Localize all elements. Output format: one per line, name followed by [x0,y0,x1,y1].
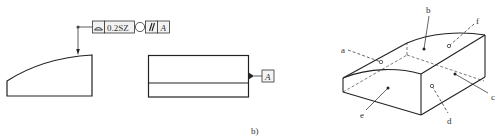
label-a: a [341,45,383,64]
svg-text:c: c [491,92,495,102]
technical-drawing: 0.2SZ A A b) [0,0,501,139]
visible-edges [343,33,485,115]
svg-text:f: f [476,16,479,26]
svg-text:a: a [341,45,345,55]
hidden-edges [343,43,484,92]
leader-arrowhead [76,49,80,55]
datum-triangle-icon [249,73,255,80]
middle-view: A [149,56,275,98]
svg-text:e: e [360,110,364,120]
left-part-outline [7,55,92,96]
label-e: e [360,87,390,121]
subfigure-label: b) [251,126,259,136]
isometric-view: a b f c d e [341,5,495,126]
label-d: d [430,84,452,126]
label-b: b [423,5,432,51]
svg-text:b: b [426,5,431,15]
label-f: f [447,16,479,48]
label-c: c [454,73,496,103]
left-view: 0.2SZ A [7,21,170,96]
datum-reference: A [160,23,167,33]
modifier-circle-icon [135,22,144,31]
feature-control-frame: 0.2SZ A [93,21,170,33]
datum-label: A [264,72,271,82]
middle-part-outline [149,56,249,98]
tolerance-value: 0.2SZ [107,23,129,33]
svg-text:d: d [447,116,452,126]
